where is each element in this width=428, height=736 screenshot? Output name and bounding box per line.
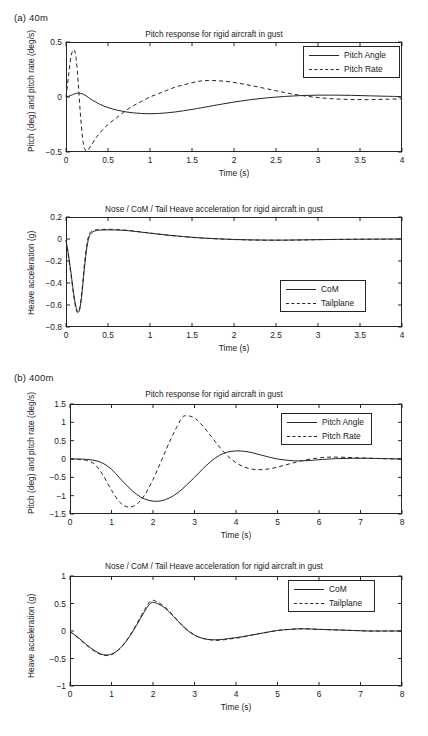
x-tick-label: 2: [151, 517, 156, 527]
x-axis-title: Time (s): [221, 530, 251, 540]
chart-b-heave-acceleration: Nose / CoM / Tail Heave acceleration for…: [0, 562, 428, 722]
chart-title: Pitch response for rigid aircraft in gus…: [0, 390, 428, 399]
x-tick-label: 7: [358, 517, 363, 527]
legend-item: Tailplane: [289, 596, 374, 610]
y-axis-title: Pitch (deg) and pitch rate (deg/s): [26, 30, 36, 152]
legend-item: Pitch Rate: [282, 429, 371, 443]
chart-legend[interactable]: Pitch Angle Pitch Rate: [303, 46, 400, 78]
y-axis-title: Heave acceleration (g): [26, 594, 36, 678]
x-tick-label: 2: [232, 155, 237, 165]
chart-a-pitch-response: Pitch response for rigid aircraft in gus…: [0, 30, 428, 180]
x-tick-label: 3: [316, 155, 321, 165]
x-tick-label: 3: [192, 517, 197, 527]
x-tick-label: 0: [68, 689, 73, 699]
legend-item: CoM: [289, 582, 374, 596]
legend-item: Pitch Angle: [304, 48, 399, 62]
x-tick-label: 7: [358, 689, 363, 699]
x-tick-label: 3.5: [354, 155, 366, 165]
x-tick-label: 1.5: [186, 155, 198, 165]
legend-line-dashed-icon: [294, 599, 324, 607]
x-tick-label: 1.5: [186, 330, 198, 340]
x-tick-label: 0.5: [102, 155, 114, 165]
legend-label: Pitch Angle: [344, 50, 386, 60]
y-tick-label: −0.8: [0, 322, 62, 332]
legend-line-dashed-icon: [287, 432, 317, 440]
y-tick-label: 1: [0, 571, 66, 581]
x-tick-label: 0: [68, 517, 73, 527]
legend-label: Pitch Rate: [322, 431, 361, 441]
y-axis-title: Pitch (deg) and pitch rate (deg/s): [26, 392, 36, 514]
legend-line-solid-icon: [309, 51, 339, 59]
x-tick-label: 4: [400, 330, 405, 340]
legend-item: Pitch Rate: [304, 62, 399, 76]
chart-title: Nose / CoM / Tail Heave acceleration for…: [0, 205, 428, 214]
y-tick-label: −1: [0, 681, 66, 691]
x-tick-label: 2: [232, 330, 237, 340]
x-tick-label: 1: [109, 517, 114, 527]
series-pitch-angle: [70, 451, 402, 501]
chart-b-pitch-response: Pitch response for rigid aircraft in gus…: [0, 390, 428, 540]
chart-legend[interactable]: CoM Tailplane: [288, 580, 375, 612]
x-tick-label: 2.5: [270, 155, 282, 165]
x-tick-label: 0: [64, 155, 69, 165]
legend-label: CoM: [329, 584, 347, 594]
x-tick-label: 5: [275, 689, 280, 699]
x-tick-label: 0: [64, 330, 69, 340]
legend-item: Pitch Angle: [282, 415, 371, 429]
x-tick-label: 2.5: [270, 330, 282, 340]
x-axis-title: Time (s): [219, 343, 249, 353]
legend-label: Tailplane: [329, 598, 362, 608]
x-tick-label: 1: [148, 330, 153, 340]
chart-legend[interactable]: Pitch Angle Pitch Rate: [281, 413, 372, 445]
legend-label: Pitch Rate: [344, 64, 383, 74]
x-tick-label: 4: [234, 689, 239, 699]
x-tick-label: 3: [316, 330, 321, 340]
x-tick-label: 8: [400, 689, 405, 699]
y-axis-title: Heave acceleration (g): [26, 231, 36, 315]
x-tick-label: 2: [151, 689, 156, 699]
chart-a-heave-acceleration: Nose / CoM / Tail Heave acceleration for…: [0, 205, 428, 355]
legend-line-solid-icon: [294, 585, 324, 593]
x-tick-label: 6: [317, 689, 322, 699]
x-tick-label: 3: [192, 689, 197, 699]
y-tick-label: 0.2: [0, 212, 62, 222]
x-tick-label: 5: [275, 517, 280, 527]
x-tick-label: 1: [148, 155, 153, 165]
series-pitch-angle: [66, 93, 402, 114]
x-tick-label: 1: [109, 689, 114, 699]
legend-item: Tailplane: [281, 296, 365, 310]
legend-item: CoM: [281, 282, 365, 296]
legend-line-dashed-icon: [309, 65, 339, 73]
panel-label-a: (a) 40m: [14, 12, 48, 23]
x-tick-label: 4: [234, 517, 239, 527]
legend-label: Tailplane: [321, 298, 354, 308]
x-tick-label: 0.5: [102, 330, 114, 340]
x-tick-label: 8: [400, 517, 405, 527]
legend-line-dashed-icon: [286, 299, 316, 307]
panel-label-b: (b) 400m: [14, 372, 54, 383]
x-tick-label: 3.5: [354, 330, 366, 340]
legend-line-solid-icon: [286, 285, 316, 293]
chart-legend[interactable]: CoM Tailplane: [280, 280, 366, 312]
x-axis-title: Time (s): [219, 168, 249, 178]
legend-label: Pitch Angle: [322, 417, 364, 427]
chart-title: Pitch response for rigid aircraft in gus…: [0, 30, 428, 39]
x-axis-title: Time (s): [221, 702, 251, 712]
x-tick-label: 6: [317, 517, 322, 527]
chart-title: Nose / CoM / Tail Heave acceleration for…: [0, 562, 428, 571]
legend-line-solid-icon: [287, 418, 317, 426]
legend-label: CoM: [321, 284, 339, 294]
x-tick-label: 4: [400, 155, 405, 165]
